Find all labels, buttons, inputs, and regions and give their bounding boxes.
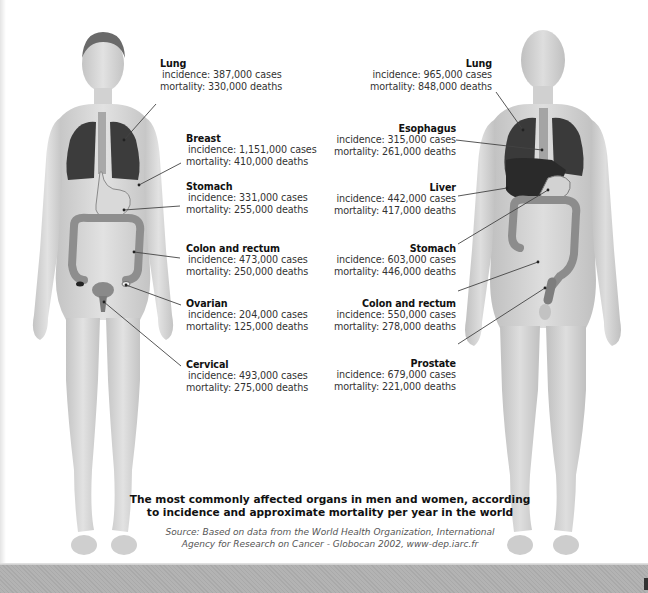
male-lung-label: Lung incidence: 965,000 cases mortality:… — [370, 58, 492, 92]
incidence-text: incidence: 965,000 cases — [370, 69, 492, 80]
organ-name: Colon and rectum — [186, 243, 308, 254]
incidence-text: incidence: 387,000 cases — [160, 69, 282, 80]
mortality-text: mortality: 410,000 deaths — [186, 156, 317, 167]
mortality-text: mortality: 255,000 deaths — [186, 204, 308, 215]
page-bottom-band — [0, 565, 648, 593]
organ-name: Cervical — [186, 359, 308, 370]
mortality-text: mortality: 417,000 deaths — [334, 205, 456, 216]
male-colon-label: Colon and rectum incidence: 550,000 case… — [334, 298, 456, 332]
male-body — [456, 30, 621, 555]
female-ovary-left — [76, 282, 84, 287]
mortality-text: mortality: 125,000 deaths — [186, 321, 308, 332]
organ-name: Stomach — [334, 243, 456, 254]
male-trachea — [539, 108, 548, 160]
mortality-text: mortality: 446,000 deaths — [334, 266, 456, 277]
incidence-text: incidence: 442,000 cases — [334, 193, 456, 204]
mortality-text: mortality: 275,000 deaths — [186, 382, 308, 393]
incidence-text: incidence: 493,000 cases — [186, 370, 308, 381]
figure-caption: The most commonly affected organs in men… — [120, 493, 540, 519]
female-left-foot — [71, 535, 97, 555]
mortality-text: mortality: 261,000 deaths — [334, 146, 456, 157]
female-ovarian-label: Ovarian incidence: 204,000 cases mortali… — [186, 298, 308, 332]
incidence-text: incidence: 679,000 cases — [334, 369, 456, 380]
female-breast-label: Breast incidence: 1,151,000 cases mortal… — [186, 133, 317, 167]
page-corner-mark — [644, 578, 648, 590]
incidence-text: incidence: 315,000 cases — [334, 134, 456, 145]
male-prostate-label: Prostate incidence: 679,000 cases mortal… — [334, 358, 456, 392]
male-stomach-label: Stomach incidence: 603,000 cases mortali… — [334, 243, 456, 277]
male-rectum — [548, 282, 552, 300]
male-right-foot — [553, 535, 579, 555]
organ-name: Esophagus — [334, 123, 456, 134]
organ-name: Breast — [186, 133, 317, 144]
mortality-text: mortality: 330,000 deaths — [160, 81, 282, 92]
mortality-text: mortality: 221,000 deaths — [334, 381, 456, 392]
male-genitals — [539, 304, 551, 320]
source-line-2: Agency for Research on Cancer - Globocan… — [120, 538, 540, 550]
source-line-1: Source: Based on data from the World Hea… — [120, 526, 540, 538]
female-body — [33, 32, 181, 555]
female-cervical-label: Cervical incidence: 493,000 cases mortal… — [186, 359, 308, 393]
organ-name: Prostate — [334, 358, 456, 369]
female-trachea — [98, 112, 106, 174]
organ-name: Lung — [160, 58, 282, 69]
incidence-text: incidence: 550,000 cases — [334, 309, 456, 320]
incidence-text: incidence: 204,000 cases — [186, 309, 308, 320]
male-head — [521, 30, 565, 90]
female-colon-label: Colon and rectum incidence: 473,000 case… — [186, 243, 308, 277]
caption-line-1: The most commonly affected organs in men… — [120, 493, 540, 506]
female-uterus — [92, 282, 114, 298]
organ-name: Lung — [370, 58, 492, 69]
caption-line-2: to incidence and approximate mortality p… — [120, 506, 540, 519]
incidence-text: incidence: 331,000 cases — [186, 192, 308, 203]
male-esophagus-label: Esophagus incidence: 315,000 cases morta… — [334, 123, 456, 157]
incidence-text: incidence: 1,151,000 cases — [186, 144, 317, 155]
mortality-text: mortality: 848,000 deaths — [370, 81, 492, 92]
infographic: Lung incidence: 387,000 cases mortality:… — [0, 0, 648, 593]
male-liver-label: Liver incidence: 442,000 cases mortality… — [334, 182, 456, 216]
incidence-text: incidence: 603,000 cases — [334, 254, 456, 265]
organ-name: Liver — [334, 182, 456, 193]
female-lung-label: Lung incidence: 387,000 cases mortality:… — [160, 58, 282, 92]
mortality-text: mortality: 278,000 deaths — [334, 321, 456, 332]
organ-name: Colon and rectum — [334, 298, 456, 309]
source-note: Source: Based on data from the World Hea… — [120, 526, 540, 550]
female-stomach-label: Stomach incidence: 331,000 cases mortali… — [186, 181, 308, 215]
incidence-text: incidence: 473,000 cases — [186, 254, 308, 265]
mortality-text: mortality: 250,000 deaths — [186, 266, 308, 277]
organ-name: Stomach — [186, 181, 308, 192]
organ-name: Ovarian — [186, 298, 308, 309]
